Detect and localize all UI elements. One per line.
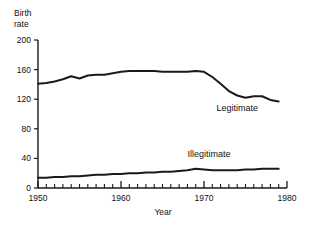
chart-canvas: 04080120160200 1950196019701980 Legitima… xyxy=(0,0,321,227)
y-axis-title-line1: Birth xyxy=(14,8,32,18)
x-tick-label: 1970 xyxy=(195,193,214,203)
y-tick-label: 160 xyxy=(17,65,31,75)
x-axis-title: Year xyxy=(154,207,171,217)
y-tick-label: 0 xyxy=(26,183,31,193)
y-tick-label: 200 xyxy=(17,35,31,45)
y-axis-title-line2: rate xyxy=(14,19,29,29)
x-tick-label: 1960 xyxy=(112,193,131,203)
x-tick-label: 1980 xyxy=(278,193,297,203)
chart-background xyxy=(0,0,321,227)
x-tick-label: 1950 xyxy=(29,193,48,203)
y-tick-label: 40 xyxy=(22,153,32,163)
birth-rate-line-chart: 04080120160200 1950196019701980 Legitima… xyxy=(0,0,321,227)
series-label-illegitimate: Illegitimate xyxy=(187,149,230,159)
y-tick-label: 120 xyxy=(17,94,31,104)
y-tick-label: 80 xyxy=(22,124,32,134)
series-label-legitimate: Legitimate xyxy=(216,103,258,113)
